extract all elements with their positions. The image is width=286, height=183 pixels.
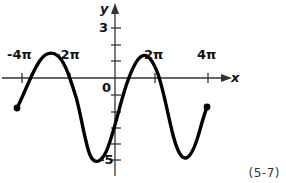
wave-curve	[17, 53, 207, 161]
figure-container: y x -4π -2π 2π 4π 3 0 -5 (5-7)	[0, 0, 286, 183]
figure-caption: (5-7)	[249, 166, 280, 180]
x-tick-label-neg-2pi: -2π	[55, 48, 80, 61]
plot-canvas	[0, 0, 286, 183]
x-axis-label: x	[231, 71, 239, 84]
y-axis-ticks	[111, 28, 121, 160]
y-axis-arrow	[111, 3, 119, 14]
y-tick-label-3: 3	[99, 21, 108, 34]
right-endpoint-dot	[204, 104, 211, 111]
y-axis	[111, 3, 119, 176]
y-tick-label-neg-5: -5	[99, 153, 113, 166]
x-tick-label-2pi: 2π	[144, 48, 163, 61]
left-endpoint-dot	[14, 105, 21, 112]
y-tick-label-0: 0	[102, 81, 111, 94]
y-axis-label: y	[100, 2, 108, 15]
x-tick-label-4pi: 4π	[197, 48, 216, 61]
x-axis	[2, 74, 232, 82]
x-tick-label-neg-4pi: -4π	[7, 48, 32, 61]
